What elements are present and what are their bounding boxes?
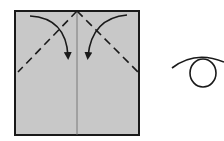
paper-square bbox=[15, 11, 139, 135]
turn-over-symbol bbox=[172, 57, 224, 87]
origami-diagram bbox=[0, 0, 224, 141]
